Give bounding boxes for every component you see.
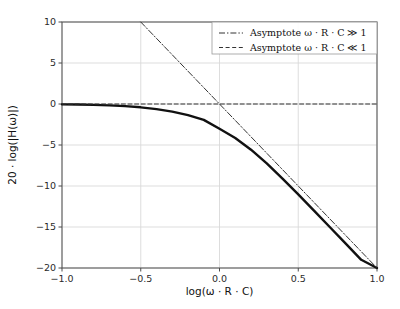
y-tick-label: −15 [36,221,56,232]
y-tick-label: 10 [44,16,56,27]
x-tick-label: −1.0 [50,273,73,284]
plot-canvas: −1.0−0.50.00.51.0 1050−5−10−15−20 log(ω … [0,0,400,309]
legend-label: Asymptote ω · R · C ≫ 1 [249,27,367,38]
x-tick-label: 0.5 [291,273,306,284]
y-axis-label: 20 · log(|H(ω)|) [6,105,19,185]
x-axis-label: log(ω · R · C) [186,285,254,297]
y-tick-label: −20 [36,262,56,273]
x-tick-label: 1.0 [369,273,384,284]
x-tick-label: −0.5 [129,273,152,284]
y-tick-label: 0 [50,98,56,109]
y-tick-label: −5 [42,139,56,150]
y-tick-label: 5 [50,57,56,68]
legend-label: Asymptote ω · R · C ≪ 1 [249,42,367,53]
x-tick-label: 0.0 [212,273,227,284]
legend: Asymptote ω · R · C ≫ 1Asymptote ω · R ·… [212,22,377,54]
y-tick-label: −10 [36,180,56,191]
bode-magnitude-figure: −1.0−0.50.00.51.0 1050−5−10−15−20 log(ω … [0,0,400,309]
